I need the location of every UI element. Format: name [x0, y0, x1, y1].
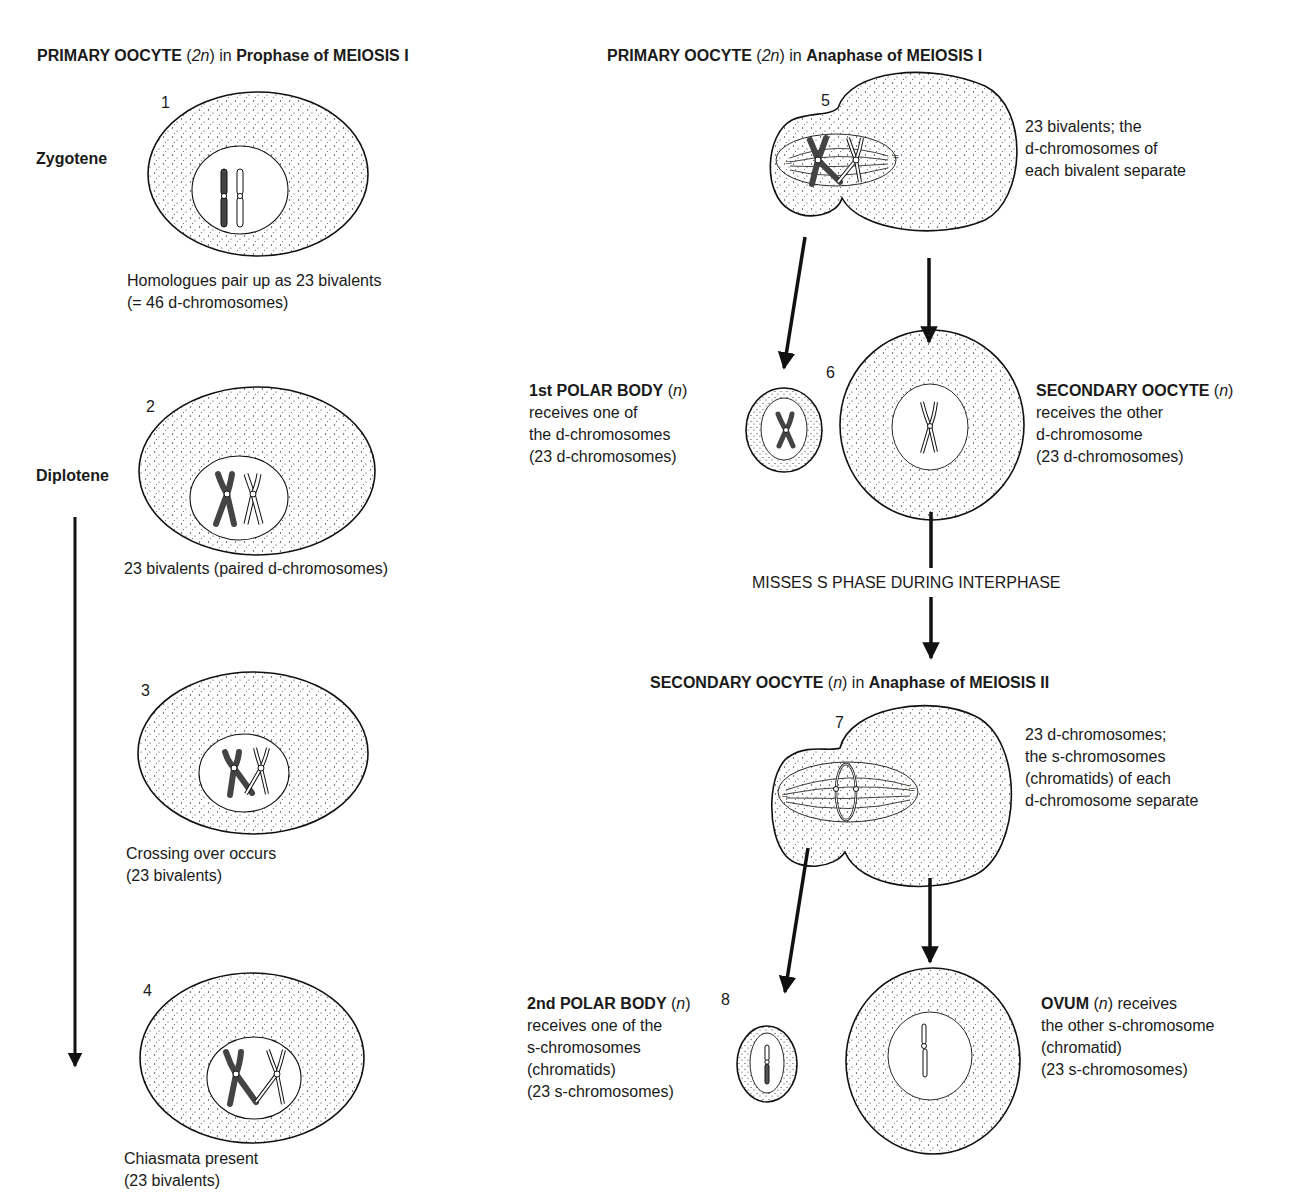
- left-column-header: PRIMARY OOCYTE (2n) in Prophase of MEIOS…: [37, 47, 409, 65]
- cell-6-secondary-oocyte: [840, 330, 1024, 520]
- right-column-header-meiosis-1: PRIMARY OOCYTE (2n) in Anaphase of MEIOS…: [607, 47, 982, 65]
- cell-number-7: 7: [835, 714, 844, 732]
- interphase-label: MISSES S PHASE DURING INTERPHASE: [752, 572, 1061, 594]
- cell-number-5: 5: [821, 92, 830, 110]
- cell-number-6: 6: [826, 364, 835, 382]
- cell-3-caption: Crossing over occurs (23 bivalents): [126, 843, 276, 887]
- cell-4-caption: Chiasmata present (23 bivalents): [124, 1148, 258, 1192]
- cell-3-crossing-over: [138, 672, 368, 834]
- ovum-caption: OVUM (n) receives the other s-chromosome…: [1041, 993, 1214, 1081]
- svg-text:=: =: [908, 784, 916, 794]
- polar-body-1-caption: 1st POLAR BODY (n) receives one of the d…: [529, 380, 687, 468]
- stage-label-zygotene: Zygotene: [36, 150, 107, 168]
- polar-body-2-caption: 2nd POLAR BODY (n) receives one of the s…: [527, 993, 691, 1103]
- cell-2-diplotene: [139, 387, 375, 555]
- right-column-header-meiosis-2: SECONDARY OOCYTE (n) in Anaphase of MEIO…: [650, 674, 1049, 692]
- svg-text:=: =: [781, 790, 789, 800]
- cell-1-caption: Homologues pair up as 23 bivalents (= 46…: [127, 270, 381, 314]
- cell-5-caption: 23 bivalents; the d-chromosomes of each …: [1025, 116, 1186, 182]
- cell-8-polar-body-2: [737, 1026, 797, 1102]
- cell-number-1: 1: [161, 94, 170, 112]
- svg-text:=: =: [785, 157, 793, 167]
- arrow-to-polar-body-1-icon: [784, 237, 805, 368]
- arrow-to-polar-body-2-icon: [785, 848, 808, 992]
- cell-number-2: 2: [146, 398, 155, 416]
- cell-6-polar-body-1: [746, 388, 822, 472]
- cell-5-anaphase-1: = =: [770, 72, 1017, 230]
- cell-number-3: 3: [141, 682, 150, 700]
- cell-number-4: 4: [143, 982, 152, 1000]
- cell-number-8: 8: [721, 991, 730, 1009]
- stage-label-diplotene: Diplotene: [36, 467, 109, 485]
- cell-1-zygotene: [148, 92, 368, 256]
- svg-text:=: =: [892, 151, 900, 161]
- cell-8-ovum: [846, 968, 1020, 1154]
- cell-7-caption: 23 d-chromosomes; the s-chromosomes (chr…: [1025, 724, 1198, 812]
- cell-4-chiasmata: [140, 973, 364, 1143]
- cell-2-caption: 23 bivalents (paired d-chromosomes): [124, 558, 388, 580]
- secondary-oocyte-caption: SECONDARY OOCYTE (n) receives the other …: [1036, 380, 1233, 468]
